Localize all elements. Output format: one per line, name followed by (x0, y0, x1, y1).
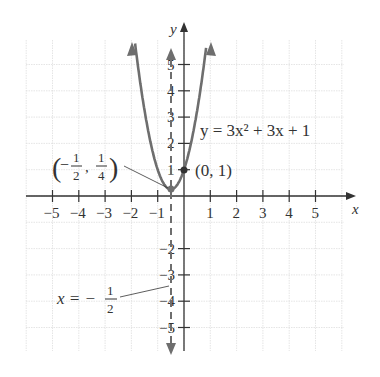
svg-text:1: 1 (107, 283, 114, 298)
axis-of-symmetry-label: x = − 1 2 (56, 283, 117, 316)
x-tick-label: 4 (285, 205, 293, 221)
y-tick-label: −4 (159, 293, 175, 309)
svg-text:2: 2 (107, 301, 114, 316)
equation-label: y = 3x² + 3x + 1 (200, 121, 310, 140)
x-tick-label: −1 (149, 205, 165, 221)
vertex-label: ( − 1 2 , 1 4 ) (52, 150, 118, 183)
svg-text:−: − (60, 156, 69, 173)
svg-text:4: 4 (98, 168, 105, 183)
x-axis-arrow-icon (346, 192, 356, 200)
parabola-chart: x y −5−4−3−2−11234554321−2−3−4−5 y = 3x²… (0, 0, 380, 377)
symmetry-up-arrow-icon (166, 48, 176, 60)
curve-right-arrow-icon (206, 42, 216, 56)
y-axis-arrow-icon (180, 22, 188, 32)
x-tick-label: 2 (233, 205, 241, 221)
svg-text:2: 2 (73, 168, 80, 183)
y-tick-label: −3 (159, 267, 175, 283)
x-tick-label: −4 (70, 205, 86, 221)
symmetry-down-arrow-icon (166, 343, 176, 355)
x-tick-label: −5 (44, 205, 60, 221)
y-tick-label: −2 (159, 241, 175, 257)
x-tick-label: 3 (259, 205, 267, 221)
y-tick-label: −5 (159, 320, 175, 336)
y-intercept-label: (0, 1) (195, 161, 232, 180)
svg-text:x = −: x = − (56, 289, 96, 308)
svg-text:): ) (109, 152, 118, 183)
x-tick-label: 5 (312, 205, 320, 221)
svg-text:,: , (85, 159, 89, 175)
x-tick-label: −3 (96, 205, 112, 221)
vertex-point (168, 186, 175, 193)
y-axis-label: y (168, 21, 177, 37)
svg-text:1: 1 (73, 150, 80, 165)
x-tick-label: 1 (206, 205, 214, 221)
svg-text:1: 1 (98, 150, 105, 165)
x-axis-label: x (351, 201, 359, 217)
y-intercept-point (181, 167, 188, 174)
x-tick-label: −2 (122, 205, 138, 221)
